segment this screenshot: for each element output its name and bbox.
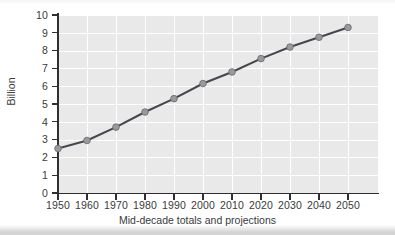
- gridline-vertical: [174, 15, 175, 193]
- y-tick: [52, 103, 58, 104]
- y-tick: [52, 175, 58, 176]
- top-scan-artifact: [0, 0, 395, 5]
- gridline-horizontal: [58, 175, 378, 176]
- bottom-scan-artifact: [0, 225, 395, 235]
- y-tick: [52, 68, 58, 69]
- gridline-vertical: [290, 15, 291, 193]
- gridline-horizontal: [58, 104, 378, 105]
- y-tick-label: 9: [18, 28, 48, 39]
- y-tick-label: 8: [18, 45, 48, 56]
- gridline-vertical: [145, 15, 146, 193]
- y-tick-label: 1: [18, 170, 48, 181]
- population-line-chart: 012345678910 195019601970198019902000201…: [0, 0, 395, 235]
- y-axis-title: Billion: [6, 57, 17, 127]
- gridlines: [58, 15, 378, 193]
- y-tick: [52, 157, 58, 158]
- x-tick-label: 2050: [328, 200, 368, 211]
- gridline-horizontal: [58, 157, 378, 158]
- gridline-vertical: [87, 15, 88, 193]
- y-tick-label: 0: [18, 188, 48, 199]
- gridline-horizontal: [58, 140, 378, 141]
- y-tick: [52, 32, 58, 33]
- y-tick-label: 6: [18, 81, 48, 92]
- y-tick-label: 5: [18, 99, 48, 110]
- y-tick: [52, 121, 58, 122]
- gridline-horizontal: [58, 33, 378, 34]
- y-tick-label: 2: [18, 152, 48, 163]
- plot-area: [58, 15, 378, 193]
- y-tick-label: 4: [18, 117, 48, 128]
- x-axis-line: [57, 193, 379, 195]
- gridline-horizontal: [58, 15, 378, 16]
- y-tick: [52, 50, 58, 51]
- gridline-vertical: [116, 15, 117, 193]
- y-tick-label: 3: [18, 134, 48, 145]
- y-tick: [52, 139, 58, 140]
- gridline-vertical: [348, 15, 349, 193]
- gridline-vertical: [261, 15, 262, 193]
- gridline-horizontal: [58, 122, 378, 123]
- y-tick: [52, 14, 58, 15]
- y-tick: [52, 86, 58, 87]
- y-tick-label: 7: [18, 63, 48, 74]
- gridline-vertical: [232, 15, 233, 193]
- gridline-horizontal: [58, 68, 378, 69]
- gridline-horizontal: [58, 86, 378, 87]
- gridline-vertical: [203, 15, 204, 193]
- gridline-vertical: [319, 15, 320, 193]
- gridline-horizontal: [58, 51, 378, 52]
- y-tick-label: 10: [18, 10, 48, 21]
